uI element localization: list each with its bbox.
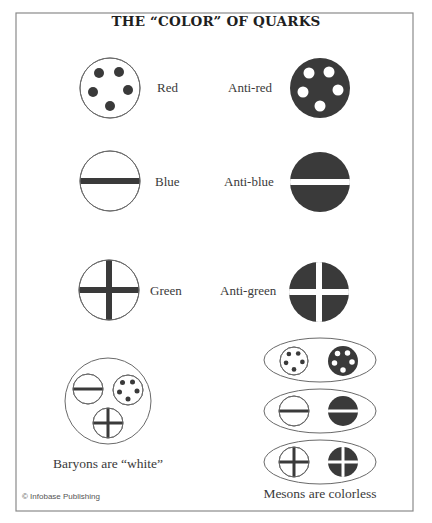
quark-legend: RedAnti-redBlueAnti-blueGreenAnti-green (78, 58, 351, 323)
red-label: Red (157, 80, 178, 95)
meson-quark-bar-icon (278, 396, 310, 426)
meson-quark-cross-anti-icon (327, 446, 359, 478)
green-label: Green (150, 283, 182, 298)
meson-quark-dots-icon (280, 347, 308, 375)
baryon-group (65, 358, 151, 444)
figure-frame (16, 13, 413, 511)
blue-label: Blue (155, 174, 180, 189)
diagram-title: THE “COLOR” OF QUARKS (111, 13, 320, 29)
diagram-canvas: THE “COLOR” OF QUARKS RedAnti-redBlueAnt… (0, 0, 432, 523)
meson-group (264, 338, 376, 484)
red-quark-icon (80, 58, 140, 118)
credit-text: © Infobase Publishing (22, 492, 100, 501)
anti-green-quark-icon (288, 261, 350, 323)
anti-blue-label: Anti-blue (224, 174, 274, 189)
meson-quark-bar-anti-icon (327, 396, 359, 426)
meson-quark-dots-anti-icon (328, 346, 358, 376)
anti-red-quark-icon (290, 58, 350, 118)
quark-color-diagram: THE “COLOR” OF QUARKS RedAnti-redBlueAnt… (0, 0, 432, 523)
baryon-quark-dots-icon (113, 375, 143, 405)
anti-blue-quark-icon (289, 152, 351, 212)
meson-green-antigreen (264, 440, 376, 484)
meson-red-antired (264, 338, 376, 382)
meson-quark-cross-icon (278, 446, 310, 478)
blue-quark-icon (79, 151, 141, 211)
anti-green-label: Anti-green (220, 283, 277, 298)
baryon-quark-cross-icon (92, 407, 124, 439)
baryon-caption: Baryons are “white” (53, 456, 163, 471)
green-quark-icon (78, 259, 140, 321)
anti-red-label: Anti-red (228, 80, 273, 95)
meson-blue-antiblue (264, 389, 376, 433)
meson-caption: Mesons are colorless (263, 486, 376, 501)
baryon-quark-bar-icon (72, 374, 104, 404)
